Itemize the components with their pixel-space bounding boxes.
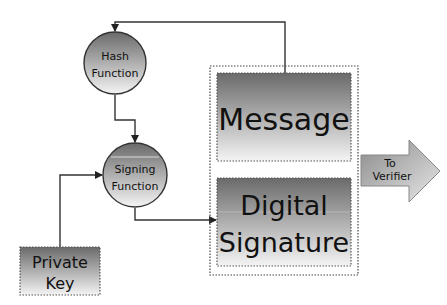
- hash-function-node: Hash Function: [84, 32, 146, 94]
- to-verifier-line1: To: [383, 157, 396, 170]
- hash-function-line1: Hash: [101, 50, 129, 63]
- to-verifier-arrow: To Verifier: [361, 140, 440, 202]
- message-box: Message: [217, 73, 351, 161]
- signing-function-line2: Function: [112, 180, 159, 193]
- edge-key-to-signing: [60, 175, 102, 247]
- signing-function-node: Signing Function: [103, 143, 167, 207]
- signature-diagram: Message Digital Signature Hash Function …: [0, 0, 447, 305]
- edge-hash-to-signing: [115, 95, 135, 142]
- edge-signing-to-signature: [135, 208, 216, 220]
- private-key-line1: Private: [32, 253, 88, 272]
- signing-function-line1: Signing: [114, 163, 155, 176]
- private-key-line2: Key: [45, 274, 74, 293]
- digital-signature-box: Digital Signature: [217, 178, 351, 266]
- hash-function-line2: Function: [92, 67, 139, 80]
- to-verifier-line2: Verifier: [372, 170, 412, 183]
- digital-signature-line1: Digital: [240, 190, 328, 221]
- digital-signature-line2: Signature: [219, 227, 349, 258]
- message-label: Message: [218, 102, 349, 137]
- private-key-box: Private Key: [20, 247, 100, 295]
